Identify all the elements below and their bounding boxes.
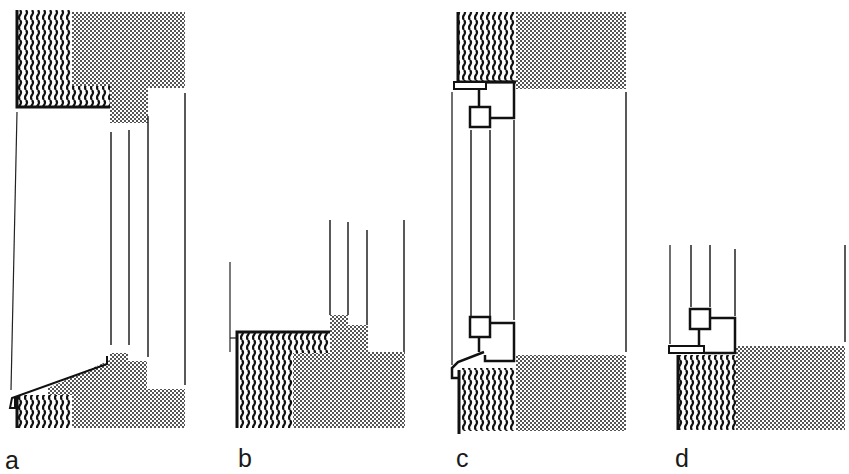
panel-c-drawing <box>452 12 626 434</box>
panel-d-drawing <box>669 245 845 430</box>
panel-a-drawing <box>10 10 185 428</box>
section-drawings <box>0 0 849 474</box>
panel-c-label: c <box>456 446 469 471</box>
panel-b-label: b <box>238 446 252 471</box>
panel-a-label: a <box>5 448 19 473</box>
panel-b-drawing <box>230 220 405 428</box>
panel-d-label: d <box>675 446 689 471</box>
